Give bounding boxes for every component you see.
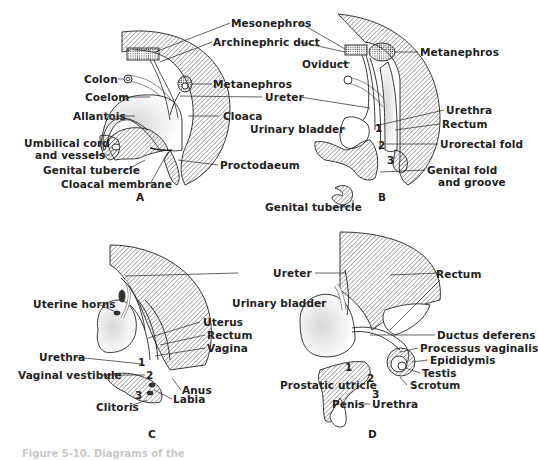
label-c-clitoris: Clitoris bbox=[96, 401, 139, 413]
label-c-vagina: Vagina bbox=[207, 342, 248, 354]
label-a-colon: Colon bbox=[84, 73, 118, 85]
label-d-rectum: Rectum bbox=[436, 268, 481, 280]
label-d-penis: Penis bbox=[332, 398, 365, 410]
label-a-coelom: Coelom bbox=[85, 91, 129, 103]
label-a-allantois: Allantois bbox=[73, 110, 126, 122]
number-c-1: 1 bbox=[138, 356, 145, 368]
panel-a-drawing bbox=[100, 31, 230, 185]
label-b-oviduct: Oviduct bbox=[302, 58, 348, 70]
label-d-testis: Testis bbox=[422, 367, 457, 379]
number-b-3: 3 bbox=[387, 154, 394, 166]
label-d-prostatic-utricle: Prostatic utricle bbox=[280, 379, 377, 391]
label-c-urethra: Urethra bbox=[39, 351, 85, 363]
label-a-cloacal-membrane: Cloacal membrane bbox=[61, 178, 172, 190]
panel-letter-a: A bbox=[136, 191, 144, 203]
number-b-2: 2 bbox=[378, 139, 385, 151]
number-d-3: 3 bbox=[372, 388, 379, 400]
label-b-genital-groove: and groove bbox=[438, 176, 506, 188]
label-d-ductus-deferens: Ductus deferens bbox=[437, 329, 536, 341]
label-c-uterus: Uterus bbox=[203, 316, 243, 328]
label-d-epididymis: Epididymis bbox=[430, 354, 496, 366]
label-a-genital-tubercle: Genital tubercle bbox=[43, 164, 140, 176]
label-b-urorectal-fold: Urorectal fold bbox=[440, 138, 523, 150]
label-d-scrotum: Scrotum bbox=[410, 379, 460, 391]
number-c-3: 3 bbox=[135, 389, 142, 401]
label-c-labia: Labia bbox=[173, 393, 205, 405]
panel-d-drawing bbox=[300, 232, 440, 427]
label-b-urethra: Urethra bbox=[446, 104, 492, 116]
label-b-genital-tubercle: Genital tubercle bbox=[265, 201, 362, 213]
label-b-genital-fold: Genital fold bbox=[427, 164, 497, 176]
label-a-umbilical-cord: Umbilical cord bbox=[24, 137, 110, 149]
number-b-1: 1 bbox=[375, 122, 382, 134]
label-a-metanephros: Metanephros bbox=[213, 78, 292, 90]
label-a-ureter: Ureter bbox=[265, 91, 304, 103]
label-a-archinephric-duct: Archinephric duct bbox=[213, 36, 320, 48]
number-c-2: 2 bbox=[146, 369, 153, 381]
panel-letter-b: B bbox=[378, 191, 386, 203]
number-d-2: 2 bbox=[367, 372, 374, 384]
label-c-uterine-horns: Uterine horns bbox=[33, 298, 116, 310]
label-a-umbilical-vessels: and vessels bbox=[35, 149, 105, 161]
figure-caption: Figure 5-10. Diagrams of the bbox=[22, 448, 185, 459]
label-b-metanephros: Metanephros bbox=[420, 46, 499, 58]
label-b-rectum: Rectum bbox=[442, 118, 487, 130]
label-c-rectum: Rectum bbox=[207, 329, 252, 341]
label-d-urinary-bladder: Urinary bladder bbox=[232, 297, 327, 309]
number-d-1: 1 bbox=[345, 361, 352, 373]
label-c-vaginal-vestibule: Vaginal vestibule bbox=[18, 369, 122, 381]
panel-letter-d: D bbox=[368, 428, 377, 440]
label-b-urinary-bladder: Urinary bladder bbox=[250, 123, 345, 135]
panel-letter-c: C bbox=[148, 428, 156, 440]
label-a-cloaca: Cloaca bbox=[223, 110, 263, 122]
label-a-mesonephros: Mesonephros bbox=[231, 17, 311, 29]
label-d-ureter: Ureter bbox=[273, 267, 312, 279]
label-a-proctodaeum: Proctodaeum bbox=[220, 159, 300, 171]
label-d-processus-vaginalis: Processus vaginalis bbox=[420, 342, 538, 354]
